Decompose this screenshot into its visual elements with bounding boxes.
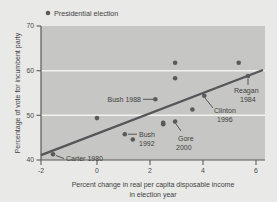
y-tick-label-40: 40 [26,156,34,163]
legend-marker-icon [46,11,51,16]
x-tick-label-m2: -2 [38,167,44,174]
x-tick-label-4: 4 [201,167,205,174]
data-point [190,107,195,112]
annotation-reagan-1984-line1: Reagan [234,87,259,95]
annotation-carter-1980: Carter 1980 [66,155,103,162]
data-point [173,60,178,65]
annotation-bush-1992-line1: Bush [139,131,155,138]
annotation-reagan-1984-line2: 1984 [240,96,256,103]
data-point-bush-1992-b [131,137,136,142]
data-point-reagan-1984 [246,74,251,79]
scatter-chart-figure: Presidential election 70 60 50 40 [0,0,277,202]
annotation-clinton-1996-line1: Clinton [214,107,236,114]
x-tick-label-2: 2 [148,167,152,174]
x-axis-title-line2: in election year [129,191,177,199]
annotation-bush-1988: Bush 1988 [108,96,142,103]
data-point-bush-1988 [153,97,158,102]
data-point [173,76,178,81]
x-axis-title-line1: Percent change in real per capita dispos… [72,181,235,189]
annotation-gore-2000-line2: 2000 [176,144,192,151]
data-point-clinton-1996 [202,93,207,98]
legend: Presidential election [46,9,119,18]
data-point [95,116,100,121]
x-tick-label-0: 0 [95,167,99,174]
legend-label-presidential-election: Presidential election [54,9,118,18]
y-tick-label-70: 70 [26,22,34,29]
y-tick-label-60: 60 [26,67,34,74]
data-point-bush-1992-a [123,132,128,137]
y-tick-label-50: 50 [26,112,34,119]
data-point-gore-2000 [173,119,178,124]
data-point-carter-1980 [51,152,56,157]
annotation-gore-2000-line1: Gore [178,135,194,142]
y-axis-title: Percentage of vote for incumbent party [14,32,22,153]
data-point [236,60,241,65]
x-tick-label-6: 6 [254,167,258,174]
annotation-bush-1992-line2: 1992 [139,140,155,147]
data-point [161,122,166,127]
annotation-clinton-1996-line2: 1996 [217,116,233,123]
